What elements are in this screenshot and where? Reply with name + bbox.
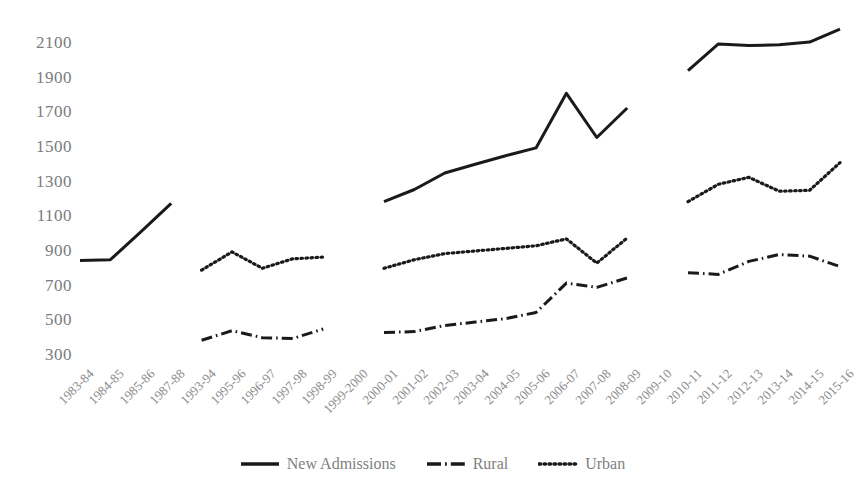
legend-label: Rural (473, 455, 509, 473)
solid-line-icon (240, 458, 280, 470)
dotted-line-icon (538, 458, 578, 470)
series-rural (202, 255, 840, 341)
chart-legend: New AdmissionsRuralUrban (0, 455, 865, 473)
legend-item[interactable]: New Admissions (240, 455, 396, 473)
legend-item[interactable]: Rural (426, 455, 509, 473)
series-urban (202, 163, 840, 271)
plot-area (0, 0, 865, 492)
legend-item[interactable]: Urban (538, 455, 625, 473)
dash-dot-line-icon (426, 458, 466, 470)
series-new-admissions (80, 29, 840, 260)
legend-label: New Admissions (287, 455, 396, 473)
line-chart: 210019001700150013001100900700500300 198… (0, 0, 865, 492)
legend-label: Urban (585, 455, 625, 473)
